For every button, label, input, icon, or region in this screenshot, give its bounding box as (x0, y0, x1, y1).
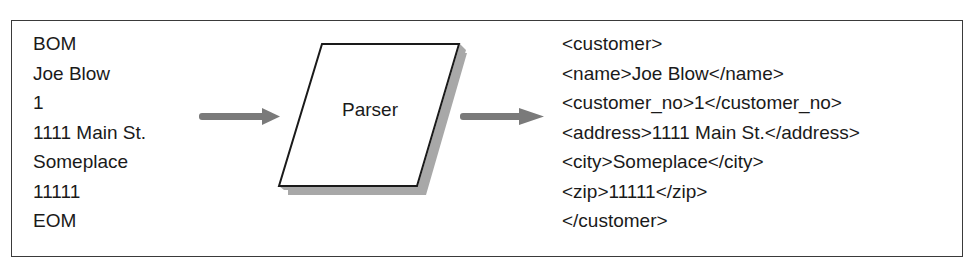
xml-line: <city>Someplace</city> (562, 147, 860, 177)
xml-line: <name>Joe Blow</name> (562, 59, 860, 89)
xml-line: </customer> (562, 206, 860, 236)
xml-line: <zip>11111</zip> (562, 177, 860, 207)
xml-output: <customer> <name>Joe Blow</name> <custom… (562, 29, 860, 236)
xml-line: <customer_no>1</customer_no> (562, 88, 860, 118)
output-arrow-icon (460, 108, 544, 125)
input-arrow-icon (199, 108, 280, 125)
xml-line: <customer> (562, 29, 860, 59)
xml-line: <address>1111 Main St.</address> (562, 118, 860, 148)
parser-label: Parser (320, 99, 420, 121)
